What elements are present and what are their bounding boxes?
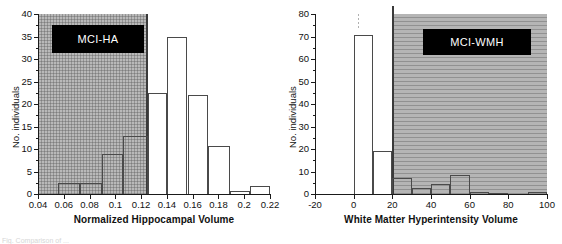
plot-mci-wmh: MCI-WMH No. individuals White Matter Hyp… <box>281 0 562 244</box>
y-axis-title-mci-ha: No. individuals <box>10 86 21 148</box>
y-tick <box>34 104 38 105</box>
figure-caption: Fig. Comparison of ... <box>2 237 69 244</box>
chart-panel-mci-wmh: MCI-WMH No. individuals White Matter Hyp… <box>281 0 562 244</box>
histogram-bar <box>102 154 124 195</box>
y-tick-label: 25 <box>4 77 32 87</box>
y-minor-tick <box>313 183 315 184</box>
figure-root: MCI-HA No. individuals Normalized Hippoc… <box>0 0 562 244</box>
y-tick-label: 30 <box>4 54 32 64</box>
y-minor-tick <box>36 25 38 26</box>
y-tick <box>311 172 315 173</box>
y-minor-tick <box>36 160 38 161</box>
y-tick-label: 0 <box>281 189 309 199</box>
y-tick <box>311 37 315 38</box>
y-tick <box>311 104 315 105</box>
y-axis-title-mci-wmh: No. individuals <box>287 86 298 148</box>
histogram-bar <box>373 151 392 194</box>
y-tick-label: 30 <box>281 122 309 132</box>
y-tick <box>34 59 38 60</box>
plot-mci-ha: MCI-HA No. individuals Normalized Hippoc… <box>0 0 281 244</box>
histogram-bar <box>123 136 147 194</box>
y-tick-label: 35 <box>4 32 32 42</box>
y-tick <box>311 82 315 83</box>
x-tick-label: 40 <box>411 200 451 210</box>
histogram-bar <box>80 183 102 194</box>
y-minor-tick <box>36 183 38 184</box>
histogram-bar <box>208 146 230 194</box>
x-tick-label: -20 <box>295 200 335 210</box>
y-tick-label: 70 <box>281 32 309 42</box>
y-tick <box>34 172 38 173</box>
histogram-bar <box>167 37 188 195</box>
y-tick <box>34 82 38 83</box>
y-tick-label: 40 <box>4 9 32 19</box>
x-tick-label: 20 <box>372 200 412 210</box>
y-tick-label: 20 <box>281 144 309 154</box>
shaded-region-edge <box>392 14 394 194</box>
y-tick <box>311 149 315 150</box>
y-tick <box>34 14 38 15</box>
x-tick-label: 80 <box>488 200 528 210</box>
histogram-bar <box>250 186 270 194</box>
y-tick <box>34 149 38 150</box>
legend-label-mci-wmh: MCI-WMH <box>450 36 503 48</box>
y-tick-label: 10 <box>281 167 309 177</box>
histogram-bar <box>58 183 80 194</box>
legend-mci-ha: MCI-HA <box>52 25 144 53</box>
y-minor-tick <box>36 115 38 116</box>
y-axis-line <box>315 14 316 195</box>
histogram-bar <box>450 175 469 194</box>
y-minor-tick <box>36 138 38 139</box>
y-tick-label: 5 <box>4 167 32 177</box>
legend-label-mci-ha: MCI-HA <box>78 33 119 45</box>
histogram-bar <box>392 178 411 194</box>
histogram-bar <box>431 184 450 194</box>
y-axis-line <box>38 14 39 195</box>
histogram-bar <box>188 95 209 194</box>
y-minor-tick <box>313 115 315 116</box>
y-minor-tick <box>36 48 38 49</box>
histogram-bar <box>148 93 167 194</box>
legend-mci-wmh: MCI-WMH <box>423 29 531 55</box>
chart-panel-mci-ha: MCI-HA No. individuals Normalized Hippoc… <box>0 0 281 244</box>
y-tick <box>34 194 38 195</box>
dotted-marker-line <box>358 14 359 28</box>
y-minor-tick <box>36 70 38 71</box>
y-tick-label: 15 <box>4 122 32 132</box>
y-minor-tick <box>313 138 315 139</box>
y-minor-tick <box>313 160 315 161</box>
y-minor-tick <box>313 93 315 94</box>
y-tick <box>311 14 315 15</box>
y-tick-label: 10 <box>4 144 32 154</box>
y-minor-tick <box>313 48 315 49</box>
y-tick-label: 20 <box>4 99 32 109</box>
y-tick <box>311 194 315 195</box>
y-tick <box>34 127 38 128</box>
x-tick-label: 100 <box>527 200 562 210</box>
x-tick-label: 60 <box>450 200 490 210</box>
y-minor-tick <box>313 70 315 71</box>
x-axis-line <box>38 194 271 195</box>
x-axis-title-mci-ha: Normalized Hippocampal Volume <box>38 214 270 225</box>
y-tick <box>311 59 315 60</box>
y-tick <box>311 127 315 128</box>
x-tick-label: 0 <box>334 200 374 210</box>
y-tick-label: 60 <box>281 54 309 64</box>
x-axis-title-mci-wmh: White Matter Hyperintensity Volume <box>315 214 547 225</box>
histogram-bar <box>354 35 373 194</box>
top-tick-mark <box>392 6 394 16</box>
y-tick-label: 40 <box>281 99 309 109</box>
y-tick-label: 0 <box>4 189 32 199</box>
y-tick <box>34 37 38 38</box>
y-minor-tick <box>36 93 38 94</box>
y-minor-tick <box>313 25 315 26</box>
y-tick-label: 80 <box>281 9 309 19</box>
y-tick-label: 50 <box>281 77 309 87</box>
